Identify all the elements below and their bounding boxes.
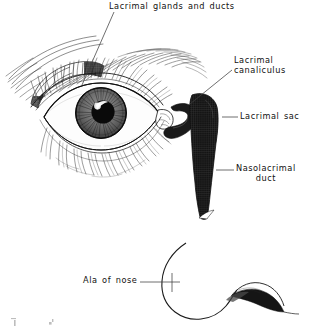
label-lacrimal-canaliculus: Lacrimal canaliculus: [234, 55, 286, 75]
label-lacrimal-glands-and-ducts: Lacrimal glands and ducts: [109, 1, 235, 11]
label-lacrimal-sac: Lacrimal sac: [240, 111, 299, 121]
medial-canthus: [156, 109, 173, 129]
label-ala-of-nose: Ala of nose: [83, 275, 137, 285]
label-nasolacrimal-duct-line2: duct: [256, 173, 276, 183]
label-nasolacrimal-duct-line1: Nasolacrimal: [236, 163, 296, 173]
label-nasolacrimal-duct: Nasolacrimal duct: [236, 163, 296, 183]
label-lacrimal-canaliculus-line2: canaliculus: [234, 65, 286, 75]
label-lacrimal-canaliculus-line1: Lacrimal: [234, 55, 273, 65]
